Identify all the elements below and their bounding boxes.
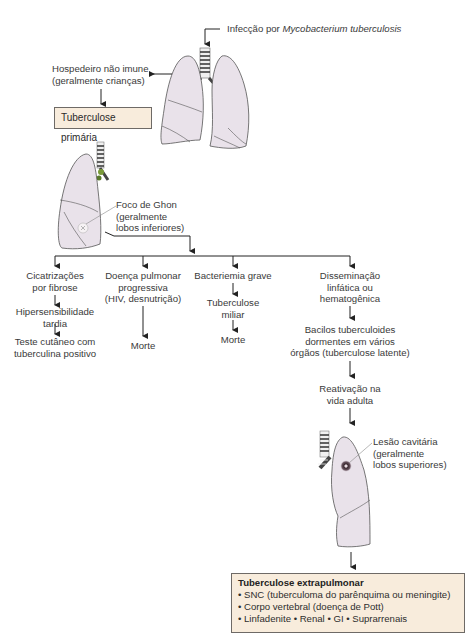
cavitary-lung-illustration [318, 431, 372, 547]
branch1-step3: Teste cutâneo comtuberculina positivo [5, 336, 105, 359]
branch2-step1: Doença pulmonarprogressiva(HIV, desnutri… [93, 270, 193, 305]
extrapulmonary-item: Corpo vertebral (doença de Pott) [238, 601, 458, 613]
host-label: Hospedeiro não imune (geralmente criança… [52, 63, 149, 86]
ghon-focus-label: Foco de Ghon (geralmente lobos inferiore… [116, 199, 184, 234]
lungs-pair-illustration [161, 48, 249, 148]
extrapulmonary-title: Tuberculose extrapulmonar [238, 577, 458, 589]
extrapulmonary-item: Linfadenite • Renal • GI • Suprarrenais [238, 613, 458, 625]
cavitary-lesion-label: Lesão cavitária (geralmente lobos superi… [373, 436, 447, 471]
infection-label: Infecção por Mycobacterium tuberculosis [227, 23, 401, 35]
branch3-step1: Bacteriemia grave [183, 270, 283, 282]
branch4-step1: Disseminaçãolinfática ouhematogênica [290, 270, 410, 305]
infection-arrow [205, 29, 220, 44]
primary-tb-box: Tuberculose primária [54, 107, 152, 129]
branch1-step1: Cicatrizaçõespor fibrose [5, 270, 105, 293]
extrapulmonary-item: SNC (tuberculoma do parênquima ou mening… [238, 589, 458, 601]
branch3-step3: Morte [183, 334, 283, 346]
branch2-step2: Morte [93, 340, 193, 352]
branch4-step2: Bacilos tuberculoidesdormentes em vários… [280, 324, 420, 359]
branch4-step3: Reativação navida adulta [290, 383, 410, 406]
branch1-step2: Hipersensibilidadetardia [5, 306, 105, 329]
ghon-arrow [105, 232, 190, 251]
branch3-step2: Tuberculosemiliar [183, 297, 283, 320]
extrapulmonary-tb-box: Tuberculose extrapulmonar SNC (tuberculo… [231, 573, 465, 633]
